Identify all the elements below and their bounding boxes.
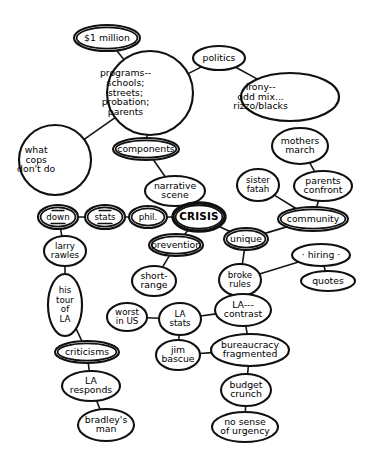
edge-programs-whatcops — [84, 118, 115, 140]
node-outline-nosense — [212, 412, 278, 442]
node-outline-budget — [221, 374, 271, 406]
node-brokerules[interactable]: brokerules — [219, 264, 261, 296]
node-phil[interactable]: phil. — [129, 206, 167, 228]
node-outline-quotes — [301, 271, 355, 291]
node-outline-sisterfatah — [237, 169, 279, 201]
node-outline-mothers — [272, 128, 328, 164]
node-outline-shortrange — [132, 266, 176, 296]
node-outline-larryrawles — [44, 236, 86, 266]
node-hiring[interactable]: · hiring · — [292, 244, 350, 266]
node-outline-bradleysman — [78, 409, 134, 441]
node-irony[interactable]: irony--odd mix...rizzo/blacks — [233, 73, 339, 121]
node-lastats[interactable]: LAstats — [159, 303, 201, 335]
node-laresponds[interactable]: LAresponds — [62, 371, 120, 401]
edge-politics-irony — [236, 67, 258, 79]
node-quotes[interactable]: quotes — [301, 271, 355, 291]
node-outline-whatcops — [19, 125, 91, 195]
edge-brokerules-hiring — [259, 262, 298, 274]
concept-map-canvas: $1 millionprograms--schools;streets;prob… — [0, 0, 371, 476]
node-outline-lacontrast — [215, 294, 271, 326]
node-shortrange[interactable]: short-range — [132, 266, 176, 296]
node-outline-prevention — [149, 234, 203, 256]
node-parentsconf[interactable]: parentsconfront — [294, 171, 352, 201]
edge-jimbascue-bureaucracy — [200, 353, 212, 354]
node-nosense[interactable]: no senseof urgency — [212, 412, 278, 442]
node-prevention[interactable]: prevention — [149, 234, 203, 256]
node-community[interactable]: community — [278, 207, 348, 231]
node-stats[interactable]: stats — [85, 205, 125, 229]
edge-histour-criticisms — [76, 329, 82, 342]
node-components[interactable]: components — [113, 138, 179, 160]
node-lacontrast[interactable]: LA---contrast — [215, 294, 271, 326]
edge-components-narrative — [153, 160, 165, 177]
node-outline-community — [278, 207, 348, 231]
edge-laresponds-bradleysman — [97, 401, 100, 410]
node-outline-stats — [85, 205, 125, 229]
edge-community-sisterfatah — [274, 195, 296, 208]
node-budget[interactable]: budgetcrunch — [221, 374, 271, 406]
node-outline-lastats — [159, 303, 201, 335]
node-bradleysman[interactable]: bradley'sman — [78, 409, 134, 441]
concept-map-svg[interactable]: $1 millionprograms--schools;streets;prob… — [0, 0, 371, 476]
node-outline-laresponds — [62, 371, 120, 401]
edge-down-larryrawles — [60, 229, 61, 236]
node-whatcops[interactable]: whatcopsdon't do — [17, 125, 91, 195]
node-jimbascue[interactable]: jimbascue — [156, 340, 200, 370]
node-unique[interactable]: unique — [224, 228, 268, 250]
node-outline-criticisms — [55, 341, 119, 363]
node-down[interactable]: down — [38, 205, 78, 229]
edge-programs-politics — [188, 67, 201, 74]
node-worstinus[interactable]: worstin US — [107, 303, 147, 331]
node-politics[interactable]: politics — [193, 46, 245, 70]
edge-criticisms-laresponds — [88, 363, 89, 371]
node-sisterfatah[interactable]: sisterfatah — [237, 169, 279, 201]
node-outline-bureaucracy — [211, 334, 289, 366]
node-outline-unique — [224, 228, 268, 250]
node-crisis[interactable]: CRISIS — [173, 203, 225, 231]
edge-parentsconf-mothers — [310, 163, 315, 172]
node-outline-crisis — [173, 203, 225, 231]
node-bureaucracy[interactable]: bureaucracyfragmented — [211, 334, 289, 366]
node-outline-worstinus — [107, 303, 147, 331]
edge-lacontrast-bureaucracy — [246, 326, 247, 334]
node-outline-parentsconf — [294, 171, 352, 201]
node-outline-phil — [129, 206, 167, 228]
edge-prevention-shortrange — [162, 256, 169, 267]
node-outline-brokerules — [219, 264, 261, 296]
node-outline-million — [74, 25, 140, 51]
edge-lacontrast-lastats — [201, 314, 216, 316]
node-million[interactable]: $1 million — [74, 25, 140, 51]
edge-bureaucracy-budget — [248, 366, 249, 374]
node-criticisms[interactable]: criticisms — [55, 341, 119, 363]
node-programs[interactable]: programs--schools;streets;probation;pare… — [100, 51, 193, 135]
node-outline-irony — [241, 73, 339, 121]
node-histour[interactable]: histourofLA — [48, 274, 82, 336]
node-larryrawles[interactable]: larryrawles — [44, 236, 86, 266]
node-outline-histour — [48, 274, 82, 336]
edge-unique-brokerules — [242, 250, 244, 264]
node-outline-hiring — [292, 244, 350, 266]
edge-unique-community — [265, 227, 287, 233]
node-outline-politics — [193, 46, 245, 70]
edge-million-programs — [117, 50, 124, 59]
node-outline-down — [38, 205, 78, 229]
node-outline-jimbascue — [156, 340, 200, 370]
node-outline-programs — [107, 51, 193, 135]
node-outline-components — [113, 138, 179, 160]
node-mothers[interactable]: mothersmarch — [272, 128, 328, 164]
